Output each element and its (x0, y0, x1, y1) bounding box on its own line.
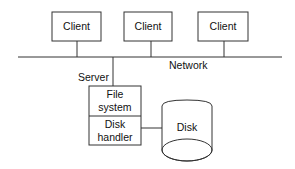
disk-handler-label-line1: Disk (105, 118, 126, 130)
client-server-diagram: Client Client Client Network Server File… (0, 0, 295, 169)
file-system-label-line2: system (98, 101, 132, 113)
client-label-1: Client (63, 20, 90, 32)
disk-cylinder-icon: Disk (162, 100, 212, 161)
client-label-3: Client (210, 20, 237, 32)
client-label-2: Client (135, 20, 162, 32)
client-node-3: Client (198, 12, 248, 57)
file-system-label-line1: File (107, 88, 124, 100)
disk-label: Disk (177, 121, 198, 133)
server-label: Server (78, 71, 109, 83)
network-label: Network (169, 59, 208, 71)
server-stack: File system Disk handler (89, 86, 141, 145)
disk-handler-label-line2: handler (97, 131, 133, 143)
client-node-2: Client (124, 12, 172, 57)
client-node-1: Client (52, 12, 101, 57)
